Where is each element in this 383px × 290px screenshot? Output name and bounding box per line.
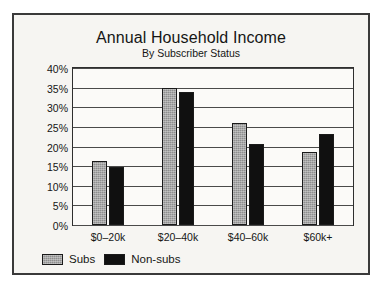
y-axis-tick-label: 35% <box>28 83 68 95</box>
x-axis-tick-label: $60k+ <box>304 231 333 243</box>
bar-group: $40–60k <box>213 68 283 225</box>
bar-subs <box>232 123 247 225</box>
chart-subtitle: By Subscriber Status <box>14 47 368 60</box>
bar-subs <box>162 88 177 225</box>
gridline: 0% <box>73 225 353 226</box>
chart-title: Annual Household Income <box>14 28 368 47</box>
legend-item: Subs <box>42 253 95 265</box>
bar-non-subs <box>249 144 264 225</box>
legend-label: Non-subs <box>131 253 180 265</box>
gray-swatch <box>42 254 63 265</box>
plot-area: 0%5%10%15%20%25%30%35%40%$0–20k$20–40k$4… <box>72 67 354 226</box>
bar-subs <box>92 161 107 225</box>
bar-non-subs <box>319 134 334 225</box>
legend-item: Non-subs <box>104 253 180 265</box>
bar-group: $0–20k <box>73 68 143 225</box>
bar-group: $60k+ <box>283 68 353 225</box>
bar-subs <box>302 152 317 225</box>
black-swatch <box>104 254 125 265</box>
x-axis-tick-label: $20–40k <box>158 231 198 243</box>
bar-group: $20–40k <box>143 68 213 225</box>
x-axis-tick-label: $40–60k <box>228 231 268 243</box>
x-axis-tick-label: $0–20k <box>91 231 125 243</box>
y-axis-tick-label: 20% <box>28 142 68 154</box>
y-axis-tick-label: 0% <box>28 220 68 232</box>
legend-label: Subs <box>69 253 95 265</box>
y-axis-tick-label: 30% <box>28 102 68 114</box>
y-axis-tick-label: 40% <box>28 63 68 75</box>
y-axis-tick-label: 25% <box>28 122 68 134</box>
y-axis-tick-label: 5% <box>28 200 68 212</box>
y-axis-tick-label: 15% <box>28 161 68 173</box>
title-block: Annual Household Income By Subscriber St… <box>14 28 368 60</box>
chart-figure: Annual Household Income By Subscriber St… <box>12 13 370 275</box>
bar-non-subs <box>109 167 124 225</box>
chart-legend: SubsNon-subs <box>42 253 180 265</box>
y-axis-tick-label: 10% <box>28 181 68 193</box>
bar-non-subs <box>179 92 194 225</box>
